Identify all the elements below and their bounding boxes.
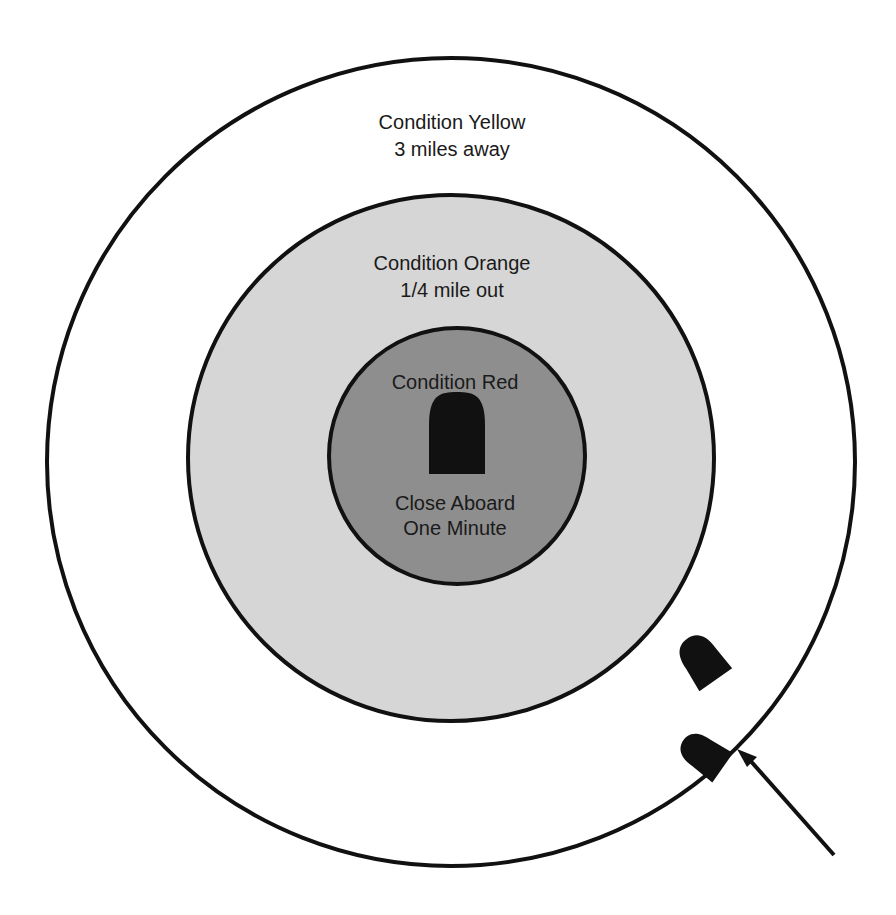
zone-red-title: Condition Red (392, 371, 519, 393)
zone-red-subtitle-1: Close Aboard (395, 492, 515, 514)
zone-yellow-subtitle: 3 miles away (394, 138, 510, 160)
own-boat-icon (429, 392, 485, 474)
zone-orange-subtitle: 1/4 mile out (400, 279, 504, 301)
zone-yellow-title: Condition Yellow (379, 111, 526, 133)
approach-arrow (748, 758, 834, 855)
threat-zone-diagram: Condition Yellow 3 miles away Condition … (0, 0, 896, 915)
zone-orange-title: Condition Orange (374, 252, 531, 274)
zone-red-subtitle-2: One Minute (403, 517, 506, 539)
